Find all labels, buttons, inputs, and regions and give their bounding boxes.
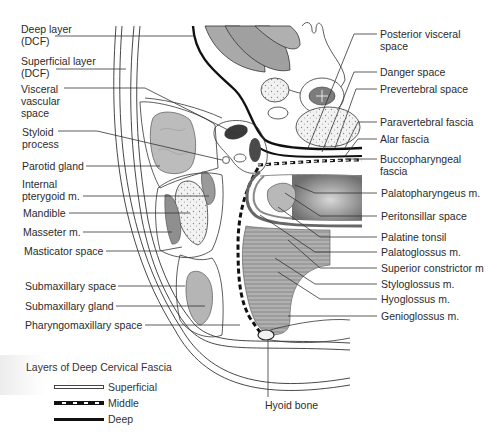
label-parotid-gland: Parotid gland — [22, 160, 84, 172]
middle-swatch — [54, 401, 104, 405]
legend-item-middle: Middle — [54, 397, 139, 409]
label-styloglossus: Styloglossus m. — [381, 278, 455, 290]
palatine-tonsil-cavity — [292, 175, 362, 220]
label-hyoid-bone: Hyoid bone — [265, 399, 318, 411]
deep-swatch — [54, 418, 104, 421]
tongue-muscles — [242, 226, 330, 335]
vertebral-body — [296, 107, 360, 147]
label-peritonsillar-space: Peritonsillar space — [381, 210, 467, 222]
label-masticator-space: Masticator space — [24, 245, 103, 257]
label-styloid-process: Styloidprocess — [22, 126, 59, 150]
hyoid-bone-shape — [258, 330, 274, 340]
posterior-neck-muscles — [205, 26, 300, 72]
label-palatopharyngeus: Palatopharyngeus m. — [381, 187, 480, 199]
middle-fascia-line — [258, 160, 362, 165]
label-submaxillary-gland: Submaxillary gland — [25, 300, 114, 312]
superficial-swatch — [54, 385, 104, 389]
label-superior-constrictor: Superior constrictor m — [381, 262, 484, 274]
label-paravertebral-fascia: Paravertebral fascia — [380, 116, 473, 128]
label-posterior-visceral-space: Posterior visceralspace — [380, 28, 461, 52]
label-mandible: Mandible — [23, 207, 66, 219]
submaxillary-gland-shape — [186, 271, 213, 325]
parotid-gland-shape — [150, 112, 195, 174]
label-pharyngomaxillary-space: Pharyngomaxillary space — [25, 319, 142, 331]
label-internal-pterygoid: Internalpterygoid m. — [22, 178, 80, 202]
label-submaxillary-space: Submaxillary space — [25, 280, 116, 292]
label-danger-space: Danger space — [380, 66, 445, 78]
label-buccopharyngeal-fascia: Buccopharyngealfascia — [380, 153, 461, 177]
jugular-vein — [249, 138, 261, 162]
carotid-artery — [223, 122, 250, 142]
legend-item-superficial: Superficial — [54, 381, 157, 393]
legend-title: Layers of Deep Cervical Fascia — [26, 361, 172, 373]
label-prevertebral-space: Prevertebral space — [380, 83, 468, 95]
label-genioglossus: Genioglossus m. — [381, 310, 459, 322]
label-visceral-vascular-space: Visceralvascularspace — [21, 83, 60, 119]
styloid-circle — [223, 157, 230, 164]
label-deep-layer: Deep layer(DCF) — [21, 23, 72, 47]
label-superficial-layer: Superficial layer(DCF) — [21, 55, 96, 79]
label-hyoglossus: Hyoglossus m. — [381, 293, 450, 305]
label-palatine-tonsil: Palatine tonsil — [381, 231, 446, 243]
label-masseter: Masseter m. — [23, 226, 81, 238]
legend-item-deep: Deep — [54, 413, 133, 425]
label-alar-fascia: Alar fascia — [380, 133, 429, 145]
label-palatoglossus: Palatoglossus m. — [381, 246, 461, 258]
